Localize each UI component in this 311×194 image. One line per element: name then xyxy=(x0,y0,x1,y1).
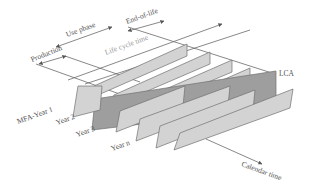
calendar-time-arrow xyxy=(206,139,262,164)
use-phase-label: Use phase xyxy=(65,20,97,39)
life-cycle-time-label: Life cycle time xyxy=(104,33,150,57)
production-label: Production xyxy=(29,43,63,64)
calendar-time-label: Calendar time xyxy=(240,159,283,182)
year-label-3: Year 3 xyxy=(75,124,97,139)
lca-label: LCA xyxy=(279,69,295,78)
year-label-2: Year 2 xyxy=(55,112,77,127)
end-of-life-label: End-of-life xyxy=(125,6,160,26)
lca-mfa-diagram: Production Use phase End-of-life Life cy… xyxy=(0,0,311,194)
year-label-1: MFA-Year 1 xyxy=(16,104,55,125)
year-label-n: Year n xyxy=(110,138,132,153)
